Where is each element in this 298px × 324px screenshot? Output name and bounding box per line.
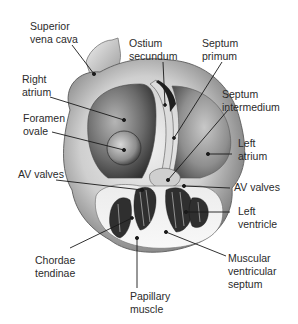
label-papillary-muscle: Papillary muscle: [130, 290, 170, 316]
label-left-ventricle: Left ventricle: [238, 205, 277, 231]
label-foramen-ovale: Foramen ovale: [23, 112, 65, 138]
label-superior-vena-cava: Superior vena cava: [30, 20, 78, 46]
label-av-valves-right: AV valves: [234, 181, 280, 194]
label-chordae-tendinae: Chordae tendinae: [35, 254, 75, 280]
label-right-atrium: Right atrium: [22, 73, 51, 99]
label-muscular-ventricular-septum: Muscular ventricular septum: [228, 252, 276, 291]
label-ostium-secundum: Ostium secundum: [129, 37, 177, 63]
label-av-valves-left: AV valves: [18, 168, 64, 181]
label-left-atrium: Left atrium: [238, 137, 267, 163]
embryonic-heart-diagram: Superior vena cava Ostium secundum Septu…: [0, 0, 298, 324]
label-septum-intermedium: Septum intermedium: [222, 88, 280, 114]
label-septum-primum: Septum primum: [202, 37, 238, 63]
